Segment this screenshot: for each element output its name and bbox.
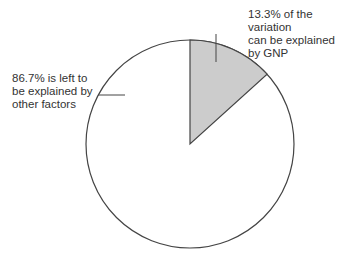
annotation-other: 86.7% is left to be explained by other f…	[12, 72, 107, 111]
annotation-line: can be explained by GNP	[248, 34, 347, 60]
annotation-gnp: 13.3% of the variation can be explained …	[248, 8, 347, 60]
annotation-line: be explained by	[12, 85, 107, 98]
annotation-line: other factors	[12, 98, 107, 111]
annotation-line: 13.3% of the variation	[248, 8, 347, 34]
annotation-line: 86.7% is left to	[12, 72, 107, 85]
